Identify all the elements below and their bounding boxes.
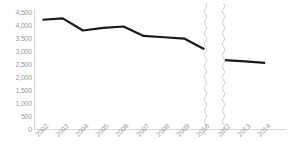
data-series-line	[34, 9, 286, 130]
y-tick-label: 2,500	[2, 61, 32, 69]
y-tick-label: 3,000	[2, 48, 32, 56]
y-tick-label: 4,000	[2, 22, 32, 30]
line-chart: 4,500 4,000 3,500 3,000 2,500 2,000 1,50…	[0, 0, 290, 163]
series-segment-after-break	[225, 60, 265, 63]
series-segment-before-break	[43, 18, 205, 49]
y-tick-label: 1,000	[2, 100, 32, 108]
y-axis-tick-labels: 4,500 4,000 3,500 3,000 2,500 2,000 1,50…	[0, 0, 32, 140]
y-tick-label: 1,500	[2, 87, 32, 95]
plot-area	[34, 9, 286, 130]
y-tick-label: 500	[2, 113, 32, 121]
y-tick-label: 3,500	[2, 35, 32, 43]
y-tick-label: 2,000	[2, 74, 32, 82]
y-tick-label: 4,500	[2, 9, 32, 17]
x-axis-tick-labels: 2002200320042005200620072008200920102012…	[0, 130, 290, 156]
